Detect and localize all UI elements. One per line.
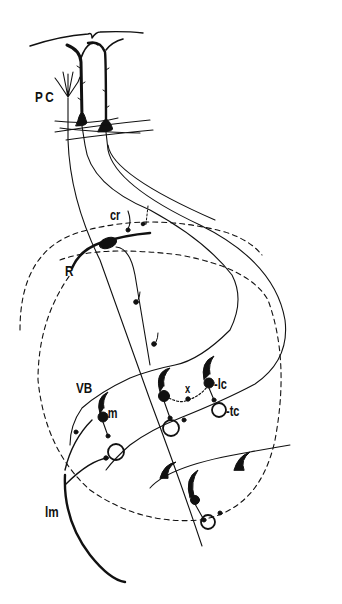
label-lm: lm — [45, 504, 59, 519]
middle-cell-dendrite — [158, 368, 170, 392]
label-x: x — [185, 383, 190, 395]
pyramidal-cell-1-dendrite — [67, 45, 82, 118]
axon-descending-right — [108, 145, 215, 220]
axon-right — [106, 132, 286, 470]
label-tc: -tc — [226, 404, 239, 418]
stellate-cell-dendrites — [55, 72, 80, 97]
middle-target-cell — [163, 420, 179, 436]
middle-cell-soma — [159, 391, 170, 402]
axon-left — [68, 98, 202, 546]
lemniscal-branch-1 — [65, 420, 92, 470]
label-pc: PC — [35, 89, 56, 104]
x-node — [186, 397, 190, 401]
reticular-axon — [116, 247, 150, 365]
pyramidal-cell-2-dendrite — [88, 42, 106, 128]
lc-cell-soma — [204, 378, 214, 388]
pyramidal-cell-2-tuft — [106, 39, 123, 50]
label-r: R — [65, 263, 73, 278]
label-cr: cr — [110, 208, 120, 222]
label-vb: VB — [76, 380, 92, 395]
pyramidal-cell-1-soma — [76, 113, 87, 127]
tc-cell — [212, 403, 226, 417]
pyramidal-cell-1-tuft — [81, 43, 98, 58]
lc-cell-dendrite — [203, 356, 214, 380]
medial-lemniscus-fiber — [65, 475, 125, 582]
cortical-surface — [30, 32, 143, 46]
label-lc: -lc — [214, 377, 227, 391]
collateral-cr — [128, 211, 130, 229]
label-m: -m — [104, 406, 117, 420]
